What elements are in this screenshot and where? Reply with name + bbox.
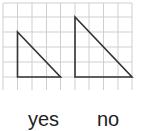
answer-no-label: no [97,109,119,129]
small-triangle [18,32,61,77]
answer-yes-label: yes [28,109,59,129]
grid-figure [0,0,142,95]
